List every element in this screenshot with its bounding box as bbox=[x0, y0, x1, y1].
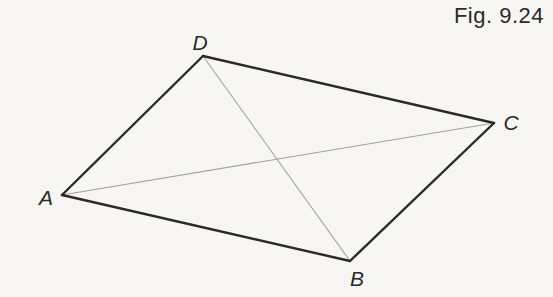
diagonal-DB bbox=[203, 56, 350, 261]
figure-page: Fig. 9.24 ABCD bbox=[0, 0, 553, 297]
vertex-label-C: C bbox=[503, 111, 519, 134]
quadrilateral-abcd-diagram: ABCD bbox=[0, 0, 553, 297]
vertex-label-B: B bbox=[350, 267, 364, 290]
side-AB bbox=[62, 195, 350, 261]
vertex-label-A: A bbox=[37, 186, 53, 209]
vertex-label-D: D bbox=[192, 31, 207, 54]
side-CD bbox=[203, 56, 494, 123]
side-DA bbox=[62, 56, 203, 195]
